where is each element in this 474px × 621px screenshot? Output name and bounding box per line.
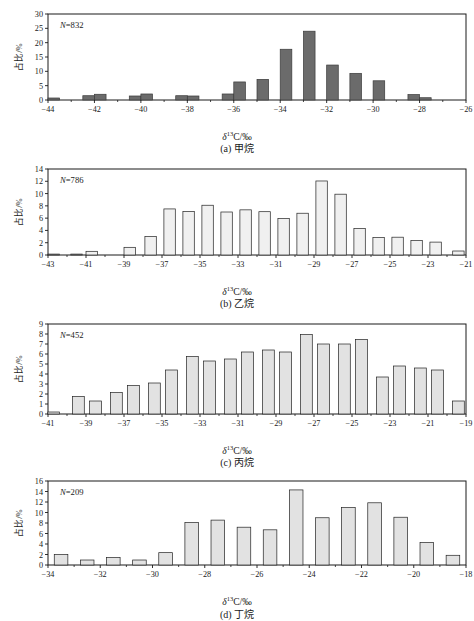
histogram-bar: [48, 98, 60, 100]
histogram-c-svg: 0123456789−41−39−37−35−33−31−29−27−25−23…: [0, 310, 474, 442]
panel-b-ethane: 02468101214−43−41−39−37−35−33−31−29−27−2…: [0, 155, 474, 310]
caption-c: (c) 丙烷: [0, 457, 474, 469]
histogram-bar: [240, 210, 251, 255]
histogram-bar: [430, 242, 441, 255]
x-tick-label: −29: [270, 419, 283, 428]
x-tick-label: −40: [134, 105, 147, 114]
x-tick-label: −43: [42, 260, 55, 269]
panel-d-butane: 0246810121416−34−32−30−28−26−24−22−20−18…: [0, 469, 474, 620]
histogram-b-svg: 02468101214−43−41−39−37−35−33−31−29−27−2…: [0, 155, 474, 283]
panel-b-plot-area: 02468101214−43−41−39−37−35−33−31−29−27−2…: [0, 155, 474, 283]
sample-size-label: N=452: [59, 330, 83, 340]
histogram-bar: [73, 397, 85, 415]
y-tick-label: 8: [39, 330, 43, 339]
x-tick-label: −21: [460, 260, 473, 269]
panel-a-xaxis-title: δ13C/‰: [0, 128, 474, 143]
y-axis-title: 占比/%: [13, 356, 24, 384]
sample-size-label: N=786: [59, 175, 84, 185]
histogram-bar: [392, 237, 403, 255]
histogram-bar: [356, 340, 368, 415]
x-tick-label: −25: [384, 260, 397, 269]
histogram-bar: [80, 560, 94, 565]
x-tick-label: −44: [42, 105, 55, 114]
sample-size-label: N=209: [59, 487, 83, 497]
histogram-bar: [289, 490, 303, 565]
caption-a: (a) 甲烷: [0, 143, 474, 155]
histogram-bar: [183, 212, 194, 256]
histogram-bar: [342, 508, 356, 565]
sample-size-label: N=832: [59, 20, 83, 30]
xaxis-unit-c: C/‰: [233, 446, 251, 456]
histogram-a-svg: 051015202530−44−42−40−38−36−34−32−30−28−…: [0, 0, 474, 128]
y-tick-label: 8: [39, 202, 43, 211]
histogram-bar: [221, 212, 232, 255]
histogram-bar: [133, 560, 147, 565]
histogram-bar: [141, 94, 153, 100]
histogram-bar: [280, 352, 292, 414]
x-tick-label: −39: [118, 260, 131, 269]
histogram-bar: [187, 96, 199, 100]
x-tick-label: −31: [232, 419, 245, 428]
histogram-bar: [111, 393, 123, 415]
y-tick-label: 14: [35, 488, 43, 497]
y-tick-label: 4: [39, 370, 43, 379]
histogram-bar: [164, 209, 175, 255]
histogram-bar: [187, 357, 199, 415]
histogram-bar: [166, 370, 178, 414]
x-tick-label: −39: [80, 419, 93, 428]
x-tick-label: −34: [42, 570, 55, 579]
histogram-bar: [90, 401, 102, 414]
histogram-bar: [373, 238, 384, 256]
histogram-bar: [263, 350, 275, 414]
y-tick-label: 7: [39, 340, 43, 349]
x-tick-label: −38: [181, 105, 194, 114]
y-tick-label: 30: [35, 10, 43, 19]
panel-d-xaxis-title: δ13C/‰: [0, 593, 474, 608]
x-tick-label: −36: [227, 105, 240, 114]
panel-a-methane: 051015202530−44−42−40−38−36−34−32−30−28−…: [0, 0, 474, 155]
x-tick-label: −20: [407, 570, 420, 579]
histogram-bar: [420, 98, 432, 100]
histogram-bar: [301, 335, 313, 415]
panel-b-xaxis-title: δ13C/‰: [0, 283, 474, 298]
histogram-bar: [48, 254, 59, 255]
histogram-bar: [54, 555, 68, 566]
histogram-bar: [263, 530, 277, 565]
histogram-d-svg: 0246810121416−34−32−30−28−26−24−22−20−18…: [0, 469, 474, 593]
x-tick-label: −30: [146, 570, 159, 579]
histogram-bar: [394, 366, 406, 414]
y-tick-label: 2: [39, 390, 43, 399]
x-tick-label: −26: [251, 570, 264, 579]
histogram-bar: [335, 194, 346, 255]
histogram-bar: [453, 251, 464, 255]
histogram-bar: [185, 523, 199, 566]
histogram-bar: [432, 370, 444, 414]
y-tick-label: 10: [35, 67, 43, 76]
histogram-bar: [339, 344, 351, 414]
x-tick-label: −25: [346, 419, 359, 428]
y-tick-label: 6: [39, 214, 43, 223]
histogram-bar: [128, 386, 140, 415]
y-axis-title: 占比/%: [13, 510, 24, 538]
xaxis-unit-b: C/‰: [233, 287, 251, 297]
histogram-bar: [159, 553, 173, 565]
histogram-bar: [394, 518, 408, 566]
histogram-bar: [71, 254, 82, 255]
histogram-bar: [124, 247, 135, 255]
x-tick-label: −33: [232, 260, 245, 269]
x-tick-label: −30: [367, 105, 380, 114]
y-tick-label: 3: [39, 380, 43, 389]
x-tick-label: −32: [94, 570, 107, 579]
y-tick-label: 15: [35, 53, 43, 62]
histogram-bar: [242, 352, 254, 414]
histogram-bar: [145, 237, 156, 255]
histogram-bar: [354, 229, 365, 255]
x-tick-label: −31: [270, 260, 283, 269]
y-tick-label: 10: [35, 190, 43, 199]
histogram-bar: [176, 96, 188, 100]
histogram-bar: [222, 94, 234, 100]
y-tick-label: 12: [35, 498, 43, 507]
histogram-bar: [350, 73, 362, 100]
histogram-bar: [303, 31, 315, 100]
